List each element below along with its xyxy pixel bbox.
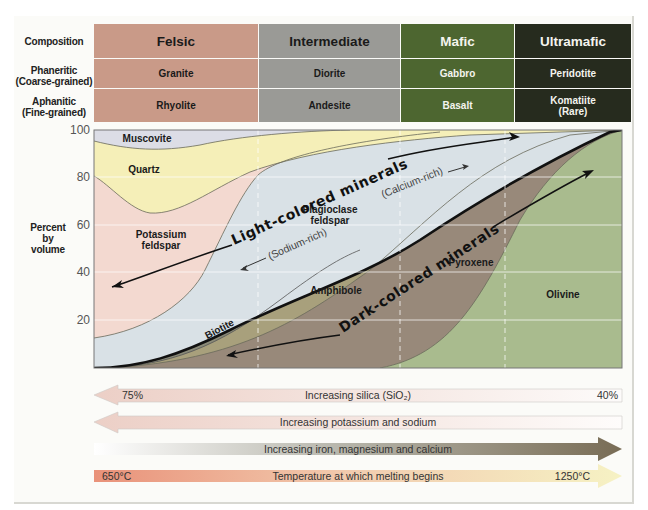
label-muscovite: Muscovite <box>123 133 172 144</box>
silica-bar-left-value: 75% <box>122 389 143 401</box>
temperature-bar-left-value: 650°C <box>102 470 132 482</box>
svg-text:feldspar: feldspar <box>311 215 350 226</box>
silica-bar-label: Increasing silica (SiO₂) <box>305 389 411 401</box>
svg-text:feldspar: feldspar <box>142 240 181 251</box>
temperature-bar-label: Temperature at which melting begins <box>272 470 443 482</box>
iron-magnesium-calcium-bar-label: Increasing iron, magnesium and calcium <box>264 443 452 455</box>
mineral-chart: 100 80 60 40 20 Muscovite Quartz Potassi… <box>0 0 648 510</box>
silica-bar-right-value: 40% <box>597 389 618 401</box>
ytick-100: 100 <box>70 123 90 137</box>
label-potassium-feldspar: Potassium <box>136 229 187 240</box>
label-quartz: Quartz <box>128 164 160 175</box>
temperature-bar-right-value: 1250°C <box>555 470 591 482</box>
ytick-80: 80 <box>77 170 91 184</box>
ytick-60: 60 <box>77 218 91 232</box>
ytick-20: 20 <box>77 313 91 327</box>
potassium-sodium-bar-label: Increasing potassium and sodium <box>280 416 437 428</box>
ytick-40: 40 <box>77 265 91 279</box>
label-olivine: Olivine <box>546 289 580 300</box>
label-amphibole: Amphibole <box>310 285 362 296</box>
